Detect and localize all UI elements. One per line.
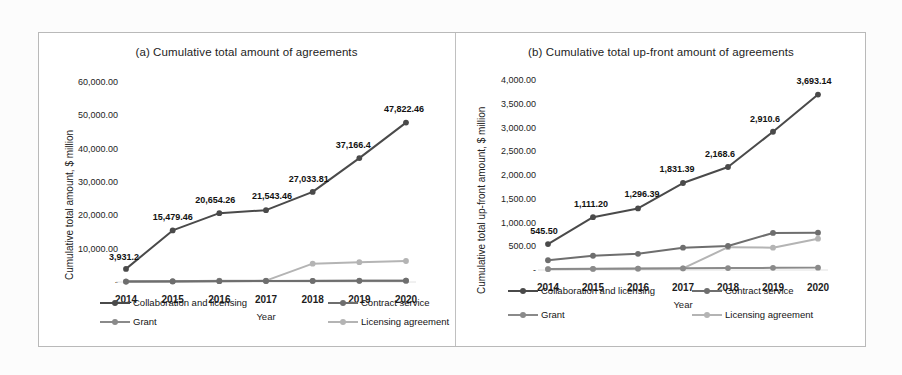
data-value-label: 3,931.2 [109,252,139,262]
legend-marker-icon [328,298,358,307]
data-point [356,278,362,284]
data-point [310,261,316,267]
data-point [635,206,641,212]
y-tick-label: 3,500.00 [501,99,536,109]
data-point [590,253,596,259]
data-point [403,258,409,264]
data-point [310,189,316,195]
legend-item-grant[interactable]: Grant [508,309,565,320]
data-point [123,266,129,272]
series-grant [545,265,821,272]
legend-label: Grant [133,316,157,327]
data-point [403,120,409,126]
data-value-label: 2,168.6 [705,149,735,159]
legend-item-collaboration-and-licensing[interactable]: Collaboration and licensing [508,285,655,296]
legend-label: Collaboration and licensing [541,285,655,296]
data-point [545,266,551,272]
y-tick-label: 4,000.00 [501,75,536,85]
legend-marker-icon [508,310,538,319]
x-tick-label: 2017 [672,282,694,293]
data-value-label: 20,654.26 [195,195,235,205]
data-point [263,207,269,213]
y-tick-label: 50,000.00 [78,110,118,120]
data-point [356,155,362,161]
legend-marker-icon [100,298,130,307]
data-point [170,279,176,285]
data-point [216,210,222,216]
legend-item-licensing-agreement[interactable]: Licensing agreement [692,309,813,320]
data-point [815,236,821,242]
legend-item-grant[interactable]: Grant [100,316,157,327]
legend-item-contract-service[interactable]: Contract service [328,297,430,308]
data-point [815,92,821,98]
legend-item-contract-service[interactable]: Contract service [692,285,794,296]
data-point [770,129,776,135]
data-point [725,243,731,249]
data-point [770,230,776,236]
x-tick-label: 2020 [807,282,829,293]
data-value-label: 2,910.6 [750,114,780,124]
data-point [635,251,641,257]
legend-label: Collaboration and licensing [133,297,247,308]
legend-marker-icon [692,286,722,295]
data-point [815,230,821,236]
legend-label: Contract service [725,285,794,296]
chart-panel-a: (a) Cumulative total amount of agreement… [38,32,455,347]
data-point [590,214,596,220]
chart-svg [548,80,818,270]
figure-root: (a) Cumulative total amount of agreement… [0,0,902,375]
data-value-label: 3,693.14 [796,76,831,86]
legend-label: Licensing agreement [361,316,449,327]
y-tick-label: 60,000.00 [78,77,118,87]
data-value-label: 15,479.46 [153,212,193,222]
y-tick-label: 2,500.00 [501,146,536,156]
data-point [545,241,551,247]
data-point [725,164,731,170]
chart-b-title: (b) Cumulative total up-front amount of … [456,46,866,58]
data-point [403,278,409,284]
data-point [123,279,129,285]
data-point [590,266,596,272]
data-value-label: 1,831.39 [659,164,694,174]
data-value-label: 21,543.46 [252,191,292,201]
legend-label: Licensing agreement [725,309,813,320]
data-point [216,278,222,284]
x-axis-label: Year [256,311,275,322]
data-point [770,245,776,251]
data-point [635,266,641,272]
y-tick-label: 3,000.00 [501,123,536,133]
legend-marker-icon [328,317,358,326]
legend-label: Contract service [361,297,430,308]
legend-item-licensing-agreement[interactable]: Licensing agreement [328,316,449,327]
data-value-label: 1,111.20 [574,199,608,209]
data-point [725,265,731,271]
data-point [680,265,686,271]
chart-panel-b: (b) Cumulative total up-front amount of … [456,32,866,347]
chart-b-plot-area: 2014201520162017201820192020Year545.501,… [548,80,818,270]
legend-marker-icon [100,317,130,326]
chart-svg [126,82,406,282]
data-point [770,265,776,271]
y-tick-label: 500.00 [508,241,536,251]
legend-item-collaboration-and-licensing[interactable]: Collaboration and licensing [100,297,247,308]
chart-b-y-ticks: 4,000.003,500.003,000.002,500.002,000.00… [470,80,536,270]
data-value-label: 545.50 [530,226,558,236]
y-tick-label: 30,000.00 [78,177,118,187]
y-tick-label: 40,000.00 [78,144,118,154]
data-point [815,265,821,271]
chart-a-title: (a) Cumulative total amount of agreement… [38,46,455,58]
x-axis-label: Year [673,299,692,310]
legend-marker-icon [692,310,722,319]
y-tick-label: - [533,265,536,275]
data-point [170,228,176,234]
series-contract-service [123,278,409,285]
chart-a-plot-area: 2014201520162017201820192020Year3,931.21… [126,82,406,282]
y-tick-label: 2,000.00 [501,170,536,180]
data-value-label: 47,822.46 [384,104,424,114]
x-tick-label: 2017 [255,294,277,305]
data-point [545,257,551,263]
data-point [680,180,686,186]
x-tick-label: 2018 [302,294,324,305]
data-value-label: 27,033.81 [289,174,329,184]
y-tick-label: 1,500.00 [501,194,536,204]
